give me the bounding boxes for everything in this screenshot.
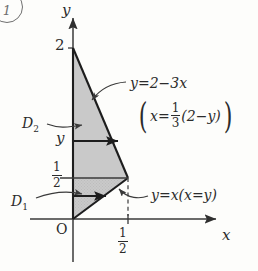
- x-axis-label: x: [222, 228, 230, 243]
- fraction-numerator: 1: [52, 161, 62, 174]
- tick-label-x-one-half: 1 2: [118, 227, 128, 255]
- origin-label: O: [56, 222, 67, 236]
- fraction-numerator: 1: [171, 102, 181, 115]
- region-label-D2: D2: [22, 116, 39, 134]
- equation-hypotenuse-inverse: ( x= 1 3 (2−y) ): [136, 101, 235, 131]
- equation-inverse-rhs: (2−y): [181, 109, 220, 123]
- leader-hypotenuse: [92, 82, 126, 100]
- left-paren: (: [139, 101, 148, 131]
- equation-hypotenuse: y=2−3x: [130, 76, 187, 90]
- fraction-denominator: 2: [52, 177, 62, 190]
- region-label-D2-subscript: 2: [33, 124, 39, 134]
- fraction-denominator: 2: [118, 243, 128, 256]
- tick-label-y-one-half: 1 2: [52, 161, 62, 189]
- fraction-denominator: 3: [171, 117, 181, 130]
- fraction-numerator: 1: [118, 227, 128, 240]
- tick-label-y-2: 2: [55, 38, 65, 53]
- region-label-D2-name: D: [22, 115, 33, 131]
- equation-inverse-lhs: x=: [150, 109, 170, 123]
- fraction-one-third: 1 3: [171, 102, 181, 130]
- region-label-D1-name: D: [11, 193, 22, 209]
- figure-panel: 1: [0, 0, 258, 271]
- fraction-one-half-y: 1 2: [52, 161, 62, 189]
- region-label-D1: D1: [11, 194, 28, 212]
- leader-diagonal: [119, 189, 148, 198]
- region-label-D1-subscript: 1: [22, 202, 28, 212]
- fraction-one-half-x: 1 2: [118, 227, 128, 255]
- coordinate-plot-svg: [0, 0, 258, 271]
- equation-diagonal: y=x(x=y): [151, 188, 217, 202]
- equation-inverse-body: x= 1 3 (2−y): [150, 102, 221, 130]
- y-axis-label: y: [62, 3, 70, 18]
- right-paren: ): [223, 101, 232, 131]
- variable-label-y: y: [56, 131, 64, 146]
